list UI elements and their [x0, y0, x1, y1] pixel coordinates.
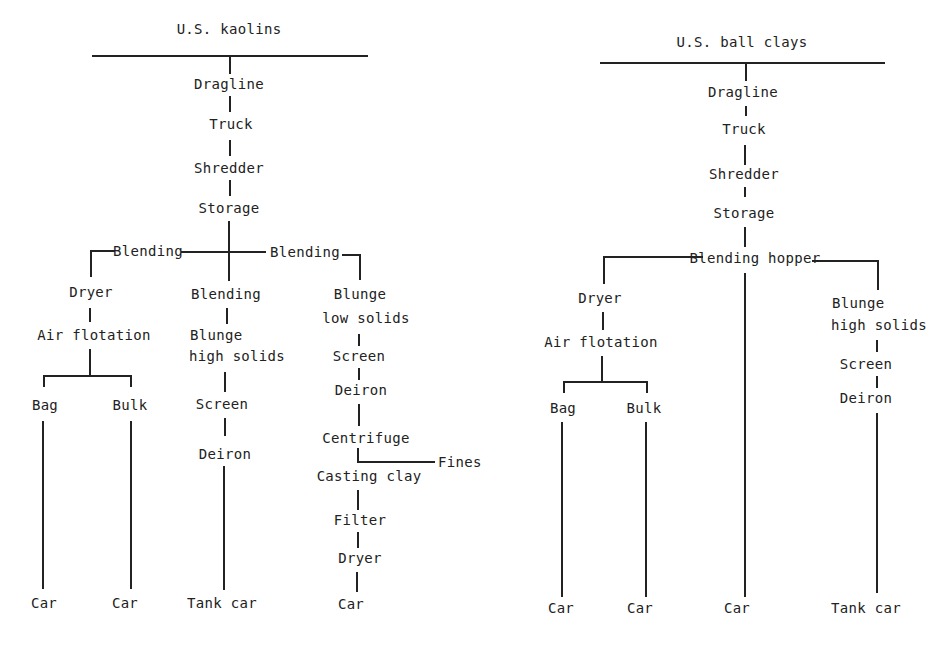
connector: [224, 418, 226, 436]
connector: [876, 376, 878, 388]
kaolins-step-dryer: Dryer: [338, 550, 382, 567]
ball-clays-end-car: Car: [724, 600, 750, 617]
kaolins-step-screen: Screen: [196, 396, 248, 413]
ball-clays-step-screen: Screen: [840, 356, 892, 373]
ball-clays-step-shredder: Shredder: [709, 166, 779, 183]
kaolins-step-bulk: Bulk: [113, 397, 148, 414]
kaolins-step-deiron: Deiron: [335, 382, 387, 399]
connector: [342, 254, 360, 256]
connector: [358, 404, 360, 426]
connector: [130, 421, 132, 589]
ball-clays-blending-hopper: Blending hopper: [690, 250, 821, 267]
connector: [603, 256, 703, 258]
ball-clays-end-car: Car: [548, 600, 574, 617]
connector: [744, 273, 746, 597]
connector: [744, 227, 746, 247]
kaolins-end-car: Car: [338, 596, 364, 613]
kaolins-step-truck: Truck: [209, 116, 253, 133]
ball-clays-step-blunge-high-solids-line1: Blunge: [832, 295, 884, 312]
kaolins-step-deiron: Deiron: [199, 446, 251, 463]
kaolins-title: U.S. kaolins: [177, 21, 282, 38]
kaolins-step-casting-clay: Casting clay: [317, 468, 422, 485]
connector: [89, 308, 91, 322]
connector: [358, 334, 360, 346]
connector: [43, 375, 131, 377]
connector: [744, 187, 746, 197]
kaolins-end-car: Car: [31, 595, 57, 612]
ball-clays-end-tank-car: Tank car: [831, 600, 901, 617]
kaolins-step-screen: Screen: [333, 348, 385, 365]
connector: [357, 532, 359, 548]
kaolins-step-storage: Storage: [198, 200, 259, 217]
ball-clays-step-dragline: Dragline: [708, 84, 778, 101]
connector: [603, 256, 605, 284]
connector: [602, 312, 604, 330]
ball-clays-title: U.S. ball clays: [677, 34, 808, 51]
kaolins-step-blunge-high-solids-line2: high solids: [189, 348, 285, 365]
connector: [356, 572, 358, 592]
ball-clays-step-bulk: Bulk: [627, 400, 662, 417]
connector: [745, 106, 747, 116]
kaolins-step-blending: Blending: [191, 286, 261, 303]
connector: [563, 381, 565, 393]
connector: [877, 260, 879, 290]
kaolins-step-filter: Filter: [334, 512, 386, 529]
kaolins-end-car: Car: [112, 595, 138, 612]
connector: [130, 375, 132, 387]
kaolins-blending-right: Blending: [270, 244, 340, 261]
connector: [876, 413, 878, 593]
connector: [357, 490, 359, 510]
ball-clays-step-dryer: Dryer: [578, 290, 622, 307]
kaolins-step-blunge-low-solids-line2: low solids: [322, 310, 409, 327]
connector: [876, 340, 878, 352]
connector: [224, 372, 226, 392]
ball-clays-step-truck: Truck: [722, 121, 766, 138]
kaolins-step-dragline: Dragline: [194, 76, 264, 93]
connector: [43, 375, 45, 387]
ball-clays-step-deiron: Deiron: [840, 390, 892, 407]
ball-clays-step-storage: Storage: [713, 205, 774, 222]
kaolins-step-centrifuge: Centrifuge: [322, 430, 409, 447]
ball-clays-step-blunge-high-solids-line2: high solids: [831, 317, 927, 334]
ball-clays-end-car: Car: [627, 600, 653, 617]
connector: [229, 140, 231, 156]
kaolins-step-blunge-low-solids-line1: Blunge: [334, 286, 386, 303]
connector: [226, 308, 228, 324]
ball-clays-step-air-flotation: Air flotation: [544, 334, 657, 351]
flow-diagram-canvas: U.S. kaolins Dragline Truck Shredder Sto…: [0, 0, 935, 647]
kaolins-end-tank-car: Tank car: [187, 595, 257, 612]
connector: [812, 260, 878, 262]
kaolins-step-bag: Bag: [32, 397, 58, 414]
connector: [563, 381, 647, 383]
connector: [358, 368, 360, 380]
kaolins-side-output-fines: Fines: [438, 454, 482, 471]
kaolins-step-dryer: Dryer: [69, 284, 113, 301]
kaolins-blending-left: Blending: [113, 243, 183, 260]
connector: [229, 180, 231, 196]
kaolins-step-air-flotation: Air flotation: [37, 327, 150, 344]
connector: [745, 63, 747, 81]
connector: [42, 421, 44, 589]
connector: [744, 145, 746, 165]
kaolins-step-blunge-high-solids-line1: Blunge: [190, 327, 242, 344]
connector: [223, 466, 225, 590]
connector: [359, 254, 361, 280]
connector: [645, 422, 647, 597]
connector: [229, 96, 231, 112]
kaolins-step-shredder: Shredder: [194, 160, 264, 177]
ball-clays-step-bag: Bag: [550, 400, 576, 417]
connector: [229, 56, 231, 74]
connector: [181, 251, 266, 253]
connector: [357, 461, 435, 463]
connector: [601, 356, 603, 381]
connector: [90, 250, 115, 252]
connector: [561, 422, 563, 597]
connector: [646, 381, 648, 393]
connector: [90, 250, 92, 277]
ball-clays-title-rule: [600, 62, 885, 64]
connector: [357, 448, 359, 462]
connector: [89, 349, 91, 376]
